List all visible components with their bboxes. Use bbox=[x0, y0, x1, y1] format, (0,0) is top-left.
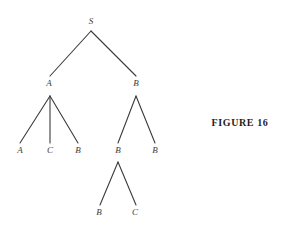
tree-edge bbox=[118, 162, 136, 205]
figure-caption: FIGURE 16 bbox=[212, 117, 269, 128]
figure-canvas: SABACBBBBC FIGURE 16 bbox=[0, 0, 282, 231]
tree-node-label: C bbox=[132, 208, 138, 217]
tree-node-label: B bbox=[96, 208, 102, 217]
tree-edge bbox=[118, 96, 136, 143]
tree-edge bbox=[50, 31, 91, 76]
tree-edge-layer bbox=[20, 31, 155, 205]
parse-tree-diagram bbox=[0, 0, 282, 231]
tree-node-label: A bbox=[46, 79, 52, 88]
tree-edge bbox=[91, 31, 136, 76]
tree-node-label: A bbox=[17, 146, 23, 155]
tree-edge bbox=[20, 96, 50, 143]
tree-node-label: C bbox=[47, 146, 53, 155]
tree-node-label: B bbox=[75, 146, 81, 155]
tree-edge bbox=[136, 96, 155, 143]
tree-node-label: S bbox=[89, 17, 94, 26]
tree-node-label: B bbox=[115, 146, 121, 155]
tree-edge bbox=[100, 162, 118, 205]
tree-node-label: B bbox=[152, 146, 158, 155]
tree-node-label: B bbox=[133, 79, 139, 88]
tree-edge bbox=[50, 96, 78, 143]
